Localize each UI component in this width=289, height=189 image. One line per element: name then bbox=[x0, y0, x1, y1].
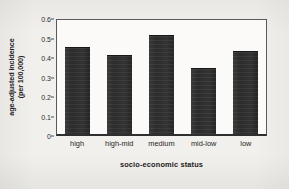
y-axis-tick-label: 0.3 bbox=[41, 74, 51, 81]
bar-high bbox=[65, 47, 90, 134]
y-axis-title: age-adjusted incidence (per 100,000) bbox=[2, 18, 32, 136]
y-axis-tick-label: 0.5 bbox=[41, 35, 51, 42]
x-axis-tick-label: high bbox=[56, 139, 98, 148]
x-axis-title: socio-economic status bbox=[56, 160, 267, 169]
y-axis-tick-mark bbox=[51, 58, 54, 59]
x-axis-tick-labels: highhigh-midmediummid-lowlow bbox=[56, 139, 267, 151]
x-axis-tick-label: medium bbox=[140, 139, 182, 148]
y-axis-tick-label: 0.6 bbox=[41, 16, 51, 23]
y-axis-tick-mark bbox=[51, 97, 54, 98]
x-axis-tick-label: low bbox=[225, 139, 267, 148]
bar-medium bbox=[149, 35, 174, 134]
x-axis-tick-label: mid-low bbox=[183, 139, 225, 148]
bar-mid-low bbox=[191, 68, 216, 134]
y-axis-tick-mark bbox=[51, 19, 54, 20]
y-axis-tick-mark bbox=[51, 38, 54, 39]
y-axis-tick-mark bbox=[51, 116, 54, 117]
bar-low bbox=[233, 51, 258, 134]
y-axis-title-line1: age-adjusted incidence bbox=[7, 38, 16, 115]
y-axis-tick-labels: 0.60.50.40.30.20.10 bbox=[33, 19, 54, 136]
x-axis-tick-label: high-mid bbox=[98, 139, 140, 148]
y-axis-tick-label: 0.2 bbox=[41, 94, 51, 101]
chart-figure: age-adjusted incidence (per 100,000) 0.6… bbox=[0, 0, 289, 189]
y-axis-tick-mark bbox=[51, 77, 54, 78]
y-axis-tick-label: 0.1 bbox=[41, 113, 51, 120]
y-axis-title-line2: (per 100,000) bbox=[17, 38, 26, 115]
y-axis-tick-mark bbox=[51, 136, 54, 137]
plot-area bbox=[56, 19, 267, 136]
bar-high-mid bbox=[107, 55, 132, 134]
bar-series bbox=[57, 20, 266, 134]
y-axis-tick-label: 0.4 bbox=[41, 55, 51, 62]
